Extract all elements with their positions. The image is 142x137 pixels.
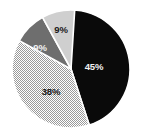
pie-slice-label-1: 38% (42, 86, 61, 97)
pie-slice-label-2: 9% (33, 42, 47, 53)
pie-slices-group (12, 10, 130, 128)
pie-slice-label-0: 45% (85, 61, 104, 72)
pie-chart-container: 45%38%9%9% (0, 0, 142, 137)
pie-chart-svg: 45%38%9%9% (0, 0, 142, 137)
pie-slice-label-3: 9% (54, 24, 68, 35)
